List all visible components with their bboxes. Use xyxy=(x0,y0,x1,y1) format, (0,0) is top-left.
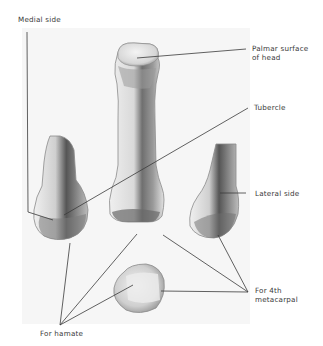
leader-4th-1 xyxy=(163,235,248,292)
lateral-view-bone xyxy=(190,144,239,238)
leader-4th-2 xyxy=(218,235,248,292)
central-metacarpal xyxy=(109,43,164,222)
label-palmar-surface-line2: of head xyxy=(252,54,281,63)
base-view-bone xyxy=(114,264,165,313)
leader-hamate-1 xyxy=(60,243,70,325)
label-medial-side: Medial side xyxy=(18,16,61,25)
medial-view-bone xyxy=(34,136,88,240)
label-tubercle: Tubercle xyxy=(254,104,286,113)
label-lateral-side: Lateral side xyxy=(255,190,299,199)
label-for-4th-line2: metacarpal xyxy=(255,296,298,305)
leader-4th-3 xyxy=(161,291,248,292)
label-for-hamate: For hamate xyxy=(40,330,83,339)
anatomy-figure: Medial side Palmar surface of head Tuber… xyxy=(0,0,323,346)
